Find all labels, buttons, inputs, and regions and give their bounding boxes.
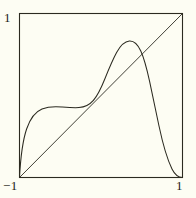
plot-canvas [0, 0, 196, 198]
plot-figure: 1 −1 1 [0, 0, 196, 198]
y-axis-label-top: 1 [4, 11, 11, 24]
x-axis-label-right: 1 [176, 179, 183, 192]
x-axis-label-left: −1 [3, 179, 18, 192]
